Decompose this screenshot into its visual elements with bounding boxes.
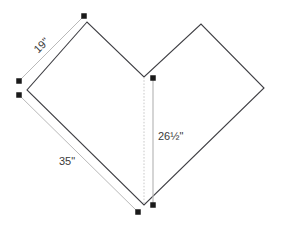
marker-left-lower [16,92,22,98]
marker-bottom-right [150,202,156,208]
dimension-label-35: 35" [59,155,75,167]
dimension-line-35 [19,95,138,212]
geometry-figure-svg: 19" 35" 26½" [0,0,281,226]
marker-top-left [81,13,87,19]
marker-bottom-left [135,209,141,215]
dimension-line-19 [19,16,84,81]
marker-left-upper [16,78,22,84]
chevron-shape-outline [27,22,264,205]
marker-notch [150,75,156,81]
figure-container: 19" 35" 26½" [0,0,281,226]
dimension-label-26-5: 26½" [158,130,183,142]
